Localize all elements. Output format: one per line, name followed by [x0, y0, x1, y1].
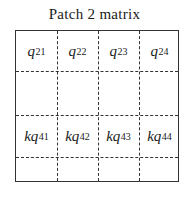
- patch-matrix-grid: q21 q22 q23 q24 kq41 kq42 kq43 kq44: [15, 30, 179, 182]
- matrix-cell-q24: q24: [139, 31, 180, 71]
- row-divider: [16, 71, 178, 72]
- matrix-cell-kq42: kq42: [57, 115, 98, 157]
- row-divider: [16, 157, 178, 158]
- matrix-cell-kq44: kq44: [139, 115, 180, 157]
- matrix-cell-q21: q21: [16, 31, 57, 71]
- matrix-cell-kq41: kq41: [16, 115, 57, 157]
- matrix-cell-q23: q23: [98, 31, 139, 71]
- matrix-cell-kq43: kq43: [98, 115, 139, 157]
- diagram-title: Patch 2 matrix: [0, 6, 189, 23]
- matrix-cell-q22: q22: [57, 31, 98, 71]
